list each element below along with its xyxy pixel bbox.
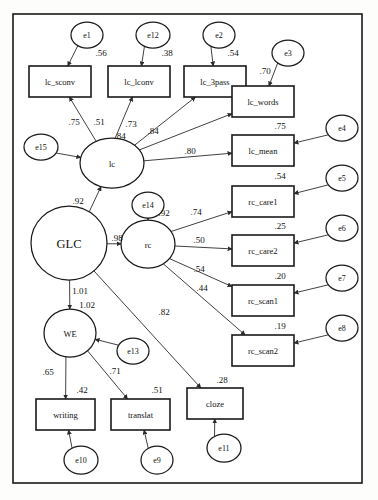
error-label: e14 xyxy=(142,201,154,210)
coefficient-rc-rc_scan1: .54 xyxy=(193,264,205,274)
coefficient-rc-rc_care2: .50 xyxy=(193,235,205,245)
latent-variable-lc: lc xyxy=(80,138,144,188)
error-term-e12: e12 xyxy=(136,22,170,48)
error-term-e8: e8 xyxy=(326,315,358,341)
coefficient-e6-rc_care2: .25 xyxy=(274,221,286,231)
error-label: e13 xyxy=(127,347,139,356)
variance-label: .84 xyxy=(114,131,126,141)
observed-label: lc_words xyxy=(247,97,278,107)
variance-label: 1.02 xyxy=(79,300,95,310)
observed-label: rc_scan1 xyxy=(248,296,278,306)
observed-label: rc_scan2 xyxy=(248,346,278,356)
observed-variable-translat: translat xyxy=(111,399,170,430)
observed-variable-rc_scan1: rc_scan1 xyxy=(232,285,294,316)
observed-label: rc_care1 xyxy=(248,197,277,207)
coefficient-e3-lc_words: .70 xyxy=(259,66,271,76)
error-label: e6 xyxy=(338,224,346,233)
sem-path-diagram: lc_sconvlc_lconvlc_3passlc_wordslc_meanr… xyxy=(0,0,378,500)
coefficient-rc-rc_care1: .74 xyxy=(190,207,202,217)
error-term-e7: e7 xyxy=(326,265,358,291)
error-label: e12 xyxy=(147,31,159,40)
error-label: e1 xyxy=(83,31,91,40)
observed-variable-lc_words: lc_words xyxy=(232,86,294,117)
variance-label: .42 xyxy=(76,385,87,395)
latent-variable-rc: rc xyxy=(121,220,175,268)
coefficient-e5-rc_care1: .54 xyxy=(274,171,286,181)
variance-label: .28 xyxy=(216,375,228,385)
coefficient-e4-lc_mean: .75 xyxy=(274,121,286,131)
observed-variable-lc_mean: lc_mean xyxy=(232,135,294,166)
observed-label: writing xyxy=(53,410,78,420)
error-term-e13: e13 xyxy=(117,338,149,364)
error-term-e10: e10 xyxy=(64,446,98,474)
observed-variable-writing: writing xyxy=(36,399,95,430)
observed-label: lc_mean xyxy=(249,146,279,156)
coefficient-WE-writing: .65 xyxy=(42,367,54,377)
variance-label: .51 xyxy=(151,385,162,395)
observed-label: lc_lconv xyxy=(124,77,154,87)
error-label: e4 xyxy=(338,124,346,133)
observed-label: cloze xyxy=(206,399,224,409)
coefficient-e2-lc_3pass: .54 xyxy=(227,48,239,58)
sem-diagram-canvas: lc_sconvlc_lconvlc_3passlc_wordslc_meanr… xyxy=(0,0,378,500)
observed-label: lc_3pass xyxy=(200,77,229,87)
observed-variable-lc_sconv: lc_sconv xyxy=(29,66,91,97)
coefficient-rc-rc_scan2: .44 xyxy=(196,283,208,293)
coefficient-WE-translat: .71 xyxy=(109,366,120,376)
error-term-e5: e5 xyxy=(326,165,358,191)
error-term-e11: e11 xyxy=(207,434,241,462)
observed-variable-cloze: cloze xyxy=(187,388,243,419)
observed-variable-lc_lconv: lc_lconv xyxy=(108,66,170,97)
error-label: e5 xyxy=(338,174,346,183)
latent-label: lc xyxy=(109,159,115,169)
observed-label: rc_care2 xyxy=(248,246,277,256)
latent-variable-GLC: GLC xyxy=(31,206,107,280)
error-term-e1: e1 xyxy=(71,22,103,48)
error-term-e3: e3 xyxy=(272,40,304,66)
coefficient-e1-lc_sconv: .56 xyxy=(95,48,107,58)
error-term-e4: e4 xyxy=(326,115,358,141)
coefficient-GLC-cloze: .82 xyxy=(158,307,169,317)
error-term-e9: e9 xyxy=(141,446,173,474)
coefficient-GLC-lc: .92 xyxy=(72,196,83,206)
error-label: e10 xyxy=(75,456,87,465)
coefficient-GLC-WE: 1.01 xyxy=(72,286,88,296)
latent-label: rc xyxy=(145,240,152,250)
latent-variable-WE: WE xyxy=(44,309,96,357)
error-label: e8 xyxy=(338,324,346,333)
latent-label: WE xyxy=(63,329,76,339)
observed-label: lc_sconv xyxy=(45,77,76,87)
error-label: e7 xyxy=(338,274,346,283)
error-term-e15: e15 xyxy=(24,134,58,160)
coefficient-e12-lc_lconv: .38 xyxy=(161,48,173,58)
observed-variable-rc_care2: rc_care2 xyxy=(232,235,294,266)
coefficient-lc-lc_3pass: .73 xyxy=(125,119,137,129)
coefficient-lc-lc_lconv: .51 xyxy=(93,117,104,127)
coefficient-lc-lc_mean: .80 xyxy=(184,146,196,156)
error-label: e3 xyxy=(284,49,292,58)
error-term-e6: e6 xyxy=(326,215,358,241)
coefficient-e8-rc_scan2: .19 xyxy=(274,321,286,331)
error-label: e11 xyxy=(218,444,229,453)
coefficient-lc-lc_sconv: .75 xyxy=(68,117,80,127)
coefficient-GLC-rc: .98 xyxy=(111,233,123,243)
error-label: e2 xyxy=(215,31,223,40)
error-label: e15 xyxy=(35,143,47,152)
latent-label: GLC xyxy=(57,237,82,251)
observed-variable-rc_care1: rc_care1 xyxy=(232,186,294,217)
coefficient-lc-lc_words: .84 xyxy=(147,126,159,136)
observed-label: translat xyxy=(128,410,154,420)
observed-variable-rc_scan2: rc_scan2 xyxy=(232,335,294,366)
error-term-e2: e2 xyxy=(203,22,235,48)
error-label: e9 xyxy=(153,456,161,465)
coefficient-e7-rc_scan1: .20 xyxy=(274,271,286,281)
coefficient-e14-rc: .92 xyxy=(158,208,169,218)
